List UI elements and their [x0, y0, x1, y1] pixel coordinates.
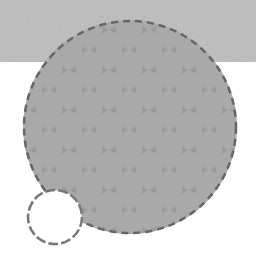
shape-scene [0, 0, 256, 261]
small-white-circle [28, 190, 82, 244]
